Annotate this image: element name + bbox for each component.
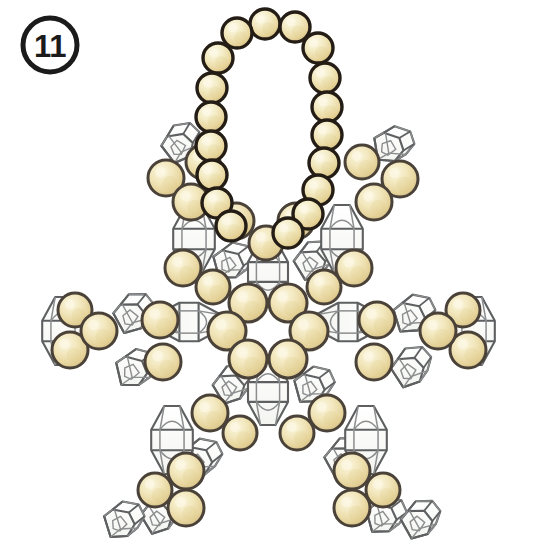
round-bead bbox=[366, 473, 400, 507]
round-bead bbox=[168, 453, 204, 489]
round-bead bbox=[196, 270, 230, 304]
round-bead bbox=[216, 211, 246, 241]
round-bead bbox=[196, 102, 226, 132]
round-bead bbox=[273, 218, 303, 248]
round-bead bbox=[356, 184, 392, 220]
round-bead bbox=[336, 250, 372, 286]
round-bead bbox=[197, 160, 227, 190]
round-bead bbox=[142, 302, 178, 338]
round-bead bbox=[312, 92, 342, 122]
round-bead bbox=[334, 490, 370, 526]
round-bead bbox=[356, 344, 392, 380]
round-bead bbox=[310, 63, 340, 93]
round-bead bbox=[229, 340, 267, 378]
round-bead bbox=[196, 131, 226, 161]
round-bead bbox=[81, 313, 117, 349]
step-badge-label: 11 bbox=[34, 29, 66, 64]
round-bead bbox=[145, 344, 181, 380]
round-bead bbox=[359, 302, 395, 338]
round-bead bbox=[222, 18, 252, 48]
round-bead bbox=[345, 145, 379, 179]
round-bead bbox=[197, 73, 227, 103]
step-badge: 11 bbox=[23, 18, 77, 72]
round-bead bbox=[138, 473, 172, 507]
round-bead bbox=[303, 33, 333, 63]
round-bead bbox=[307, 270, 341, 304]
round-bead bbox=[309, 395, 345, 431]
pattern-canvas: 11 bbox=[0, 0, 534, 555]
round-bead bbox=[312, 120, 342, 150]
round-bead bbox=[309, 148, 339, 178]
round-bead bbox=[203, 43, 233, 73]
snowflake-diagram: 11 bbox=[0, 0, 534, 555]
round-bead bbox=[334, 453, 370, 489]
round-bead bbox=[280, 416, 314, 450]
round-bead bbox=[192, 395, 228, 431]
round-bead bbox=[223, 416, 257, 450]
round-bead bbox=[168, 490, 204, 526]
round-bead bbox=[165, 250, 201, 286]
round-bead bbox=[250, 9, 280, 39]
round-bead bbox=[420, 313, 456, 349]
round-bead bbox=[269, 340, 307, 378]
